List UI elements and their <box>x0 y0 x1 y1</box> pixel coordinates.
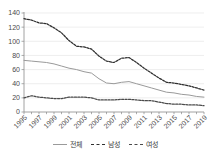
legend-label-male: 남성 <box>108 141 120 148</box>
x-axis-labels: 1995199719992001200320052007200920112013… <box>12 114 208 130</box>
x-tick-label: 2001 <box>57 114 73 130</box>
y-tick-label: 120 <box>8 24 20 31</box>
legend-swatch-male <box>91 144 105 145</box>
series-line-0 <box>24 60 204 97</box>
chart-svg: 020406080100120140 199519971999200120032… <box>0 0 210 135</box>
x-tick-label: 2007 <box>102 114 118 130</box>
legend-swatch-total <box>53 144 67 145</box>
y-tick-label: 100 <box>8 38 20 45</box>
x-tick-label: 2003 <box>72 114 88 130</box>
legend-swatch-female <box>129 144 143 145</box>
legend-label-female: 여성 <box>146 141 158 148</box>
y-tick-label: 80 <box>12 52 20 59</box>
legend-item-female: 여성 <box>129 141 158 148</box>
x-tick-label: 1997 <box>27 114 43 130</box>
y-tick-label: 40 <box>12 80 20 87</box>
y-axis-labels: 020406080100120140 <box>8 9 20 115</box>
x-tick-label: 2017 <box>177 114 193 130</box>
x-tick-label: 2005 <box>87 114 103 130</box>
data-series-group <box>24 19 204 106</box>
plot-area: 020406080100120140 199519971999200120032… <box>0 0 210 135</box>
y-tick-label: 0 <box>16 108 20 115</box>
x-tick-label: 2019 <box>192 114 208 130</box>
x-tick-label: 1995 <box>12 114 28 130</box>
legend-item-total: 전체 <box>53 141 82 148</box>
x-tick-label: 1999 <box>42 114 58 130</box>
legend-item-male: 남성 <box>91 141 120 148</box>
y-tick-label: 60 <box>12 66 20 73</box>
chart-legend: 전체 남성 여성 <box>0 134 210 155</box>
x-tick-label: 2011 <box>133 114 149 130</box>
y-tick-label: 20 <box>12 94 20 101</box>
series-line-1 <box>24 19 204 90</box>
x-tick-label: 2009 <box>117 114 133 130</box>
line-chart: 020406080100120140 199519971999200120032… <box>0 0 210 155</box>
legend-label-total: 전체 <box>70 141 82 148</box>
x-tick-label: 2015 <box>162 114 178 130</box>
y-tick-label: 140 <box>8 9 20 16</box>
x-tick-label: 2013 <box>147 114 163 130</box>
series-line-2 <box>24 96 204 106</box>
